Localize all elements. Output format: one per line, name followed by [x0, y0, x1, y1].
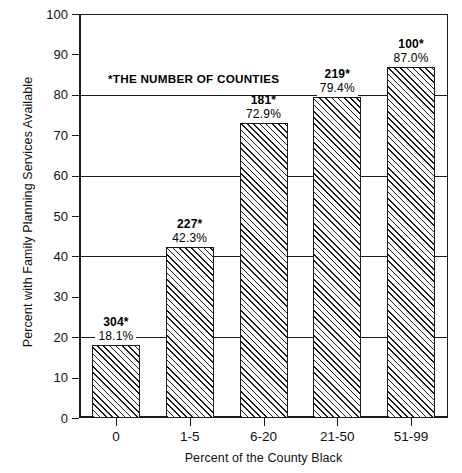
y-axis-tick-label: 60	[0, 169, 68, 182]
chart-annotation: *THE NUMBER OF COUNTIES	[106, 71, 281, 86]
x-axis-tick	[190, 418, 191, 426]
bar[interactable]	[387, 67, 435, 418]
y-axis-tick-label: 20	[0, 331, 68, 344]
y-axis-tick	[72, 256, 79, 257]
bar-count-label: 181*	[214, 94, 314, 106]
bar[interactable]	[240, 123, 288, 418]
y-axis-tick	[72, 95, 79, 96]
x-axis-tick	[116, 418, 117, 426]
y-axis-tick	[72, 378, 79, 379]
y-axis-tick	[72, 176, 79, 177]
y-axis-tick	[72, 54, 79, 55]
y-axis-tick	[72, 297, 79, 298]
bar-value-label: 18.1%	[66, 330, 166, 342]
bar-chart: Percent with Family Planning Services Av…	[0, 0, 462, 473]
y-axis-tick-label: 40	[0, 250, 68, 263]
x-axis-tick	[411, 418, 412, 426]
bar-value-label: 72.9%	[214, 108, 314, 120]
y-axis-tick	[72, 418, 79, 419]
bar[interactable]	[313, 97, 361, 418]
y-axis-tick-label: 10	[0, 371, 68, 384]
x-axis-tick	[337, 418, 338, 426]
y-axis-tick	[72, 14, 79, 15]
x-axis-tick	[264, 418, 265, 426]
y-axis-tick-label: 90	[0, 48, 68, 61]
x-axis-title: Percent of the County Black	[79, 451, 448, 465]
bar-value-label: 79.4%	[287, 82, 387, 94]
bar-count-label: 219*	[287, 68, 387, 80]
bar[interactable]	[166, 247, 214, 418]
y-axis-tick-label: 70	[0, 129, 68, 142]
x-axis-tick-label: 51-99	[366, 430, 456, 445]
bar-value-label: 87.0%	[361, 52, 461, 64]
y-axis-tick-label: 100	[0, 8, 68, 21]
y-axis-tick	[72, 216, 79, 217]
y-axis-tick-label: 50	[0, 210, 68, 223]
y-axis-tick-label: 80	[0, 88, 68, 101]
bar-count-label: 100*	[361, 38, 461, 50]
bar-value-label: 42.3%	[140, 232, 240, 244]
y-axis-tick	[72, 135, 79, 136]
y-axis-tick-label: 30	[0, 290, 68, 303]
y-axis-tick-label: 0	[0, 412, 68, 425]
bar-count-label: 227*	[140, 218, 240, 230]
bar-count-label: 304*	[66, 316, 166, 328]
bar[interactable]	[92, 345, 140, 418]
